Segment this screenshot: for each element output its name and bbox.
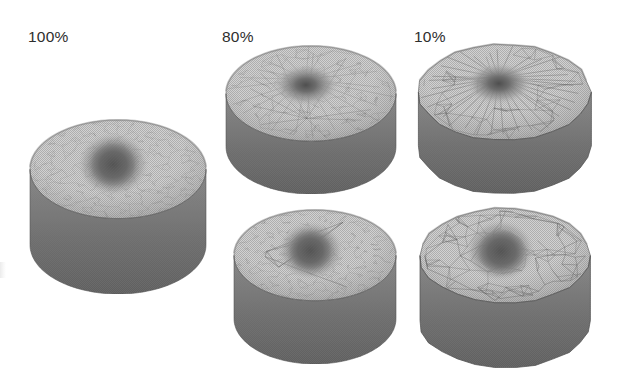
specimen-mesh-100-percent	[28, 118, 208, 294]
specimen-mesh-10-percent-top	[416, 42, 592, 194]
specimen-render	[28, 118, 208, 294]
specimen-render	[418, 206, 592, 368]
specimen-mesh-80-percent-top	[224, 44, 398, 194]
scan-edge-artifact	[0, 262, 6, 278]
specimen-mesh-80-percent-bottom	[232, 208, 398, 364]
mesh-coarsening-figure: 100% 80% 10%	[0, 0, 625, 386]
cone-depression	[464, 61, 533, 105]
specimen-render	[232, 208, 398, 364]
label-100-percent: 100%	[28, 29, 68, 45]
label-80-percent: 80%	[222, 29, 254, 45]
specimen-render	[224, 44, 398, 194]
specimen-render	[416, 42, 592, 194]
specimen-mesh-10-percent-bottom	[418, 206, 592, 368]
cone-depression	[272, 63, 340, 107]
